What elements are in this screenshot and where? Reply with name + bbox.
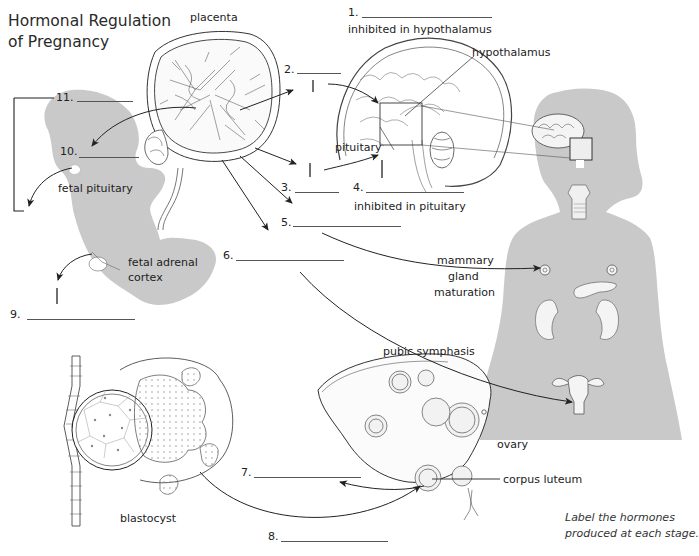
blank-line[interactable] [79, 157, 139, 158]
mammary-label-line2: gland [448, 270, 479, 283]
inhibited-pituitary-label: inhibited in pituitary [354, 200, 466, 213]
pubic-symphasis-label: pubic symphasis [383, 345, 475, 358]
mammary-right-icon [607, 265, 617, 275]
blank-line[interactable] [236, 260, 344, 261]
corpus-luteum-label: corpus luteum [503, 473, 582, 486]
blastocyst-illustration [64, 356, 233, 526]
mammary-label-line3: maturation [434, 286, 495, 299]
blank-line[interactable] [293, 226, 401, 227]
blank-number: 8. [268, 530, 279, 543]
hypothalamus-label: hypothalamus [472, 46, 550, 59]
mammary-label-line1: mammary [437, 254, 494, 267]
blank-number: 10. [60, 145, 78, 158]
blank-number: 7. [241, 466, 252, 479]
blank-number: 11. [56, 91, 74, 104]
blank-number: 5. [281, 216, 292, 229]
ovary-label: ovary [497, 438, 528, 451]
mammary-left-icon [540, 265, 550, 275]
blank-number: 1. [348, 6, 359, 19]
woman-silhouette [480, 89, 682, 440]
blank-number: 4. [353, 181, 364, 194]
fetal-adrenal-label-line1: fetal adrenal [128, 256, 198, 269]
blank-line[interactable] [281, 541, 388, 542]
blank-line[interactable] [77, 101, 133, 102]
instruction-line-1: Label the hormones [565, 511, 675, 524]
blank-line[interactable] [254, 477, 361, 478]
title-line-2: of Pregnancy [8, 32, 171, 53]
title-line-1: Hormonal Regulation [8, 11, 171, 32]
blank-line[interactable] [366, 192, 464, 193]
placenta-illustration [145, 31, 280, 230]
fetal-adrenal-icon [89, 257, 107, 271]
brain-detail-box [570, 138, 592, 160]
blastocyst-label: blastocyst [120, 512, 176, 525]
pituitary-label: pituitary [335, 141, 381, 154]
fetal-pituitary-label: fetal pituitary [58, 182, 133, 195]
placenta-label: placenta [190, 11, 238, 24]
page-title: Hormonal Regulation of Pregnancy [8, 11, 171, 53]
blank-line[interactable] [295, 192, 339, 193]
blank-line[interactable] [27, 319, 135, 320]
blank-number: 9. [10, 308, 21, 321]
hypothalamus-box [380, 103, 422, 145]
cerebellum-icon [430, 132, 454, 168]
blank-line[interactable] [297, 73, 341, 74]
blank-line[interactable] [362, 17, 492, 18]
blank-number: 3. [281, 181, 292, 194]
blank-number: 2. [284, 63, 295, 76]
ovary-illustration [318, 354, 500, 520]
fetal-adrenal-label-line2: cortex [128, 271, 163, 284]
inhibited-hypothalamus-label: inhibited in hypothalamus [348, 23, 492, 36]
instruction-line-2: produced at each stage. [565, 527, 699, 540]
blank-number: 6. [223, 249, 234, 262]
